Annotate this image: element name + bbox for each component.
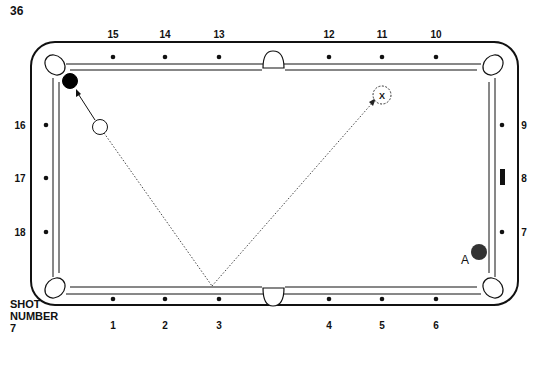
label-10: 10 xyxy=(430,29,442,40)
label-2: 2 xyxy=(162,320,168,331)
label-17: 17 xyxy=(14,173,26,184)
label-8: 8 xyxy=(521,173,527,184)
caption-line-2: NUMBER xyxy=(10,310,58,322)
label-18: 18 xyxy=(14,227,26,238)
label-1: 1 xyxy=(110,320,116,331)
cue-ball xyxy=(93,120,108,135)
caption-line-1: SHOT xyxy=(10,298,58,310)
label-12: 12 xyxy=(323,29,335,40)
label-3: 3 xyxy=(216,320,222,331)
label-13: 13 xyxy=(213,29,225,40)
label-11: 11 xyxy=(377,29,388,40)
target-x-icon: X xyxy=(379,91,385,101)
table-outer-rail xyxy=(31,42,518,305)
pool-table-diagram: 15 14 13 12 11 10 1 2 3 4 5 6 16 17 18 9… xyxy=(0,0,540,366)
object-ball xyxy=(63,74,78,89)
label-16: 16 xyxy=(14,120,26,131)
shot-caption: SHOT NUMBER 7 xyxy=(10,298,58,334)
label-4: 4 xyxy=(326,320,332,331)
label-6: 6 xyxy=(433,320,439,331)
ball-a xyxy=(471,244,487,260)
label-15: 15 xyxy=(107,29,119,40)
caption-line-3: 7 xyxy=(10,322,58,334)
label-9: 9 xyxy=(521,120,527,131)
label-5: 5 xyxy=(379,320,385,331)
label-7: 7 xyxy=(521,227,527,238)
diamond-8-marker xyxy=(500,169,505,185)
label-14: 14 xyxy=(159,29,171,40)
ball-a-label: A xyxy=(461,253,469,267)
